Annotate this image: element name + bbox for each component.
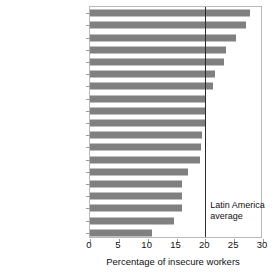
bar — [90, 71, 215, 78]
y-axis-tick — [86, 62, 90, 63]
bar-row — [90, 129, 261, 141]
bar-row — [90, 68, 261, 80]
plot-area: Latin America average — [89, 6, 262, 238]
bar-row — [90, 7, 261, 19]
chart-figure: MexicoBelizeBoliviaPeruEl SalvadorHondur… — [0, 0, 274, 272]
x-axis-tick-label: 15 — [170, 239, 181, 250]
bar — [90, 83, 213, 90]
latin-america-average-label: Latin America average — [210, 200, 265, 222]
y-axis-tick — [86, 184, 90, 185]
y-axis-tick — [86, 25, 90, 26]
bar-row — [90, 44, 261, 56]
bar-row — [90, 166, 261, 178]
y-axis-tick — [86, 233, 90, 234]
bar — [90, 34, 236, 41]
y-axis-tick — [86, 123, 90, 124]
y-axis-tick — [86, 160, 90, 161]
latin-america-average-line — [205, 7, 206, 237]
bar — [90, 217, 174, 224]
bar-row — [90, 19, 261, 31]
bar — [90, 22, 246, 29]
y-axis-tick — [86, 172, 90, 173]
bar-row — [90, 105, 261, 117]
y-axis-tick — [86, 86, 90, 87]
bar — [90, 156, 200, 163]
x-axis-tick-label: 5 — [115, 239, 120, 250]
bar — [90, 132, 202, 139]
x-axis-tick-label: 20 — [199, 239, 210, 250]
bar-row — [90, 92, 261, 104]
y-axis-tick — [86, 99, 90, 100]
y-axis-tick — [86, 50, 90, 51]
x-axis-tick-label: 0 — [86, 239, 91, 250]
bar — [90, 193, 182, 200]
bar — [90, 181, 182, 188]
x-axis-tick-label: 30 — [257, 239, 268, 250]
bar — [90, 119, 205, 126]
bar — [90, 107, 205, 114]
y-axis-tick — [86, 221, 90, 222]
bar — [90, 144, 201, 151]
y-axis-tick — [86, 135, 90, 136]
y-axis-tick — [86, 38, 90, 39]
y-axis-tick — [86, 74, 90, 75]
x-axis-tick-label: 25 — [228, 239, 239, 250]
bar — [90, 168, 188, 175]
latin-america-average-label-line2: average — [210, 211, 265, 222]
bar — [90, 58, 224, 65]
bar-row — [90, 227, 261, 239]
latin-america-average-label-line1: Latin America — [210, 200, 265, 211]
bar — [90, 95, 206, 102]
bar-row — [90, 31, 261, 43]
bar-row — [90, 80, 261, 92]
y-axis-tick — [86, 111, 90, 112]
x-axis-title: Percentage of insecure workers — [0, 256, 274, 267]
bar-row — [90, 117, 261, 129]
y-axis-tick — [86, 208, 90, 209]
bar-row — [90, 154, 261, 166]
bar-row — [90, 56, 261, 68]
x-axis-tick-label: 10 — [141, 239, 152, 250]
bar — [90, 229, 152, 236]
bar — [90, 10, 250, 17]
bar-row — [90, 141, 261, 153]
bar — [90, 205, 182, 212]
y-axis-tick — [86, 147, 90, 148]
x-axis-title-text: Percentage of insecure workers — [106, 256, 240, 267]
y-axis-tick — [86, 13, 90, 14]
y-axis-tick — [86, 196, 90, 197]
bar-row — [90, 178, 261, 190]
